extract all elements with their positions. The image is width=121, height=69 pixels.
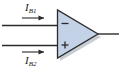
circuit-schematic-svg — [0, 0, 121, 69]
label-bias-current-ib1: IB1 — [25, 2, 36, 13]
current-arrow-ib1 — [22, 16, 44, 21]
opamp-bias-current-figure: IB1 IB2 — [0, 0, 121, 69]
label-ib1-subscript: B1 — [29, 7, 37, 15]
label-ib2-subscript: B2 — [29, 60, 37, 68]
label-bias-current-ib2: IB2 — [25, 55, 36, 66]
opamp-triangle — [58, 10, 99, 58]
